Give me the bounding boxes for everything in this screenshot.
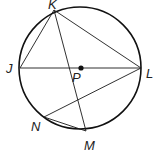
label-p: P [72,70,81,85]
label-k: K [48,0,58,12]
label-n: N [31,119,41,134]
segment-kj [20,10,54,68]
label-j: J [5,61,13,76]
label-l: L [146,66,153,81]
label-m: M [84,138,95,153]
circle-diagram: K J L P N M [0,0,159,157]
segment-nm [44,117,86,131]
segment-ln [44,68,141,117]
